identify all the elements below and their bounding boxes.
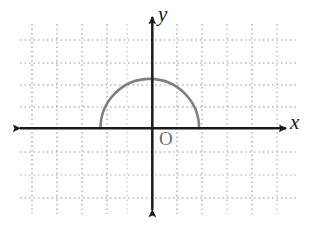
x-axis-label: x — [290, 112, 299, 133]
origin-label: O — [159, 129, 173, 148]
canvas-background — [0, 0, 312, 225]
y-axis-label: y — [158, 4, 167, 25]
coordinate-plane-graphic — [0, 0, 312, 225]
figure-container: ) — [0, 0, 312, 225]
